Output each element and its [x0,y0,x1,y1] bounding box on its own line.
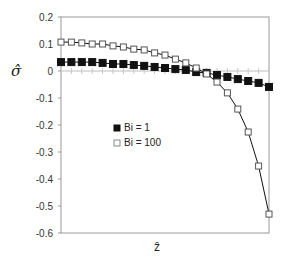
plot-border [61,17,269,233]
filled-square-marker [99,59,106,66]
y-tick-label: -0.3 [36,147,54,158]
legend-filled-square-icon [114,125,120,131]
open-square-marker [245,129,251,135]
open-square-marker [152,50,158,56]
filled-square-marker [245,77,252,84]
filled-square-marker [78,59,85,66]
y-tick-label: -0.1 [36,93,54,104]
filled-square-marker [162,65,169,72]
open-square-marker [183,60,189,66]
filled-square-marker [141,62,148,69]
filled-square-marker [182,66,189,73]
open-square-marker [235,106,241,112]
open-square-marker [172,56,178,62]
filled-square-marker [266,83,273,90]
open-square-marker [266,211,272,217]
y-tick-label: 0 [47,66,53,77]
filled-square-marker [151,63,158,70]
open-square-marker [68,39,74,45]
y-axis-label: σ̂ [11,62,22,80]
open-square-marker [100,41,106,47]
filled-square-marker [120,60,127,67]
filled-square-marker [68,59,75,66]
filled-square-marker [89,59,96,66]
open-square-marker [214,79,220,85]
open-square-marker [224,90,230,96]
legend-label: Bi = 100 [124,137,161,148]
open-square-marker [193,65,199,71]
filled-square-marker [224,73,231,80]
open-square-marker [120,44,126,50]
y-tick-label: -0.6 [36,228,54,239]
legend: Bi = 1Bi = 100 [114,122,161,148]
filled-square-marker [130,62,137,69]
open-square-marker [141,47,147,53]
open-square-marker [89,41,95,47]
legend-open-square-icon [114,140,120,146]
y-axis-ticks: 0.20.10-0.1-0.2-0.3-0.4-0.5-0.6 [36,12,61,239]
filled-square-marker [214,72,221,79]
chart: 0.20.10-0.1-0.2-0.3-0.4-0.5-0.6 Bi = 1Bi… [0,0,284,259]
filled-square-marker [255,79,262,86]
filled-square-marker [172,66,179,73]
y-tick-label: 0.2 [39,12,53,23]
y-tick-label: -0.4 [36,174,54,185]
y-tick-label: -0.2 [36,120,54,131]
open-square-marker [204,71,210,77]
y-tick-label: -0.5 [36,201,54,212]
legend-label: Bi = 1 [124,122,150,133]
plot-frame [61,17,269,233]
open-square-marker [162,52,168,58]
x-axis-label: ẑ [154,240,160,254]
filled-square-marker [58,59,65,66]
y-tick-label: 0.1 [39,39,53,50]
series-markers [58,39,273,217]
open-square-marker [110,43,116,49]
filled-square-marker [110,60,117,67]
open-square-marker [79,40,85,46]
open-square-marker [58,39,64,45]
open-square-marker [131,46,137,52]
open-square-marker [256,163,262,169]
filled-square-marker [234,76,241,83]
